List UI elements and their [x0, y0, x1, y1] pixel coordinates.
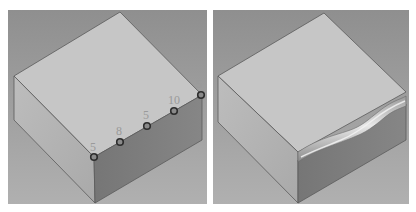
control-point-3-label: 5: [143, 108, 149, 122]
control-point-1-label: 5: [90, 140, 96, 154]
control-point-4-label: 10: [168, 93, 180, 107]
right-panel-deformed-block: [213, 10, 409, 204]
control-point-5-label: 5: [196, 77, 202, 91]
left-diagram: 5 8 5 10 5: [8, 10, 207, 204]
left-panel-block-with-control-points: 5 8 5 10 5: [8, 10, 207, 204]
right-diagram: [213, 10, 409, 204]
control-point-2-label: 8: [116, 124, 122, 138]
